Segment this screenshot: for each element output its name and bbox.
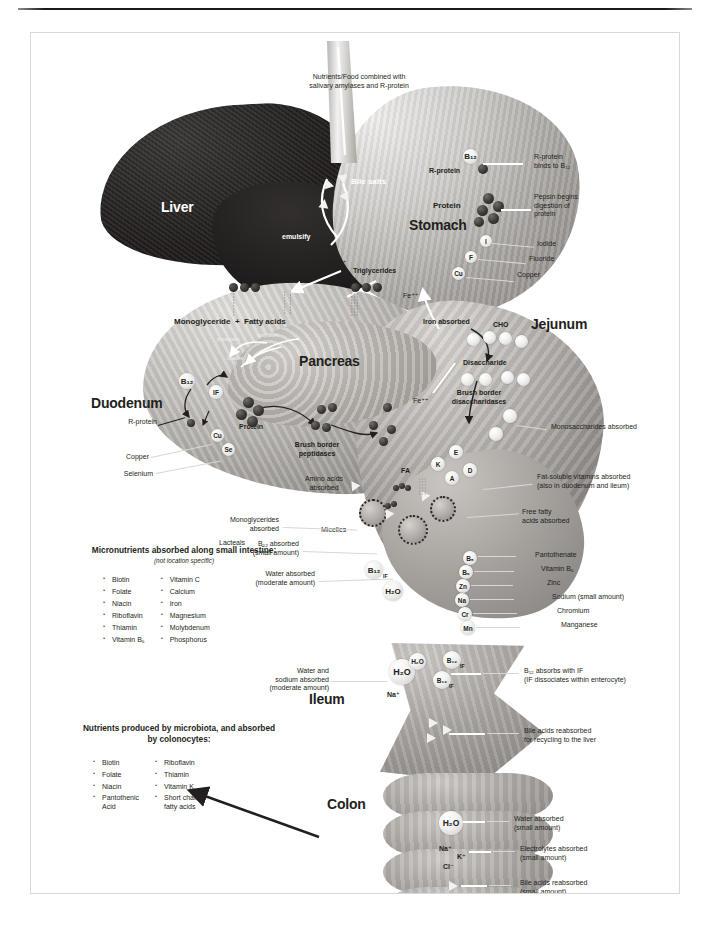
microbiota-box-title: Nutrients produced by microbiota, and ab… — [79, 723, 279, 745]
annotation-iodide: Iodide — [537, 240, 556, 249]
annotation-zinc: Zinc — [547, 579, 560, 588]
molecule-vitamin-k: K — [431, 457, 445, 471]
leader-line — [156, 460, 221, 474]
bile-salt-triangle-icon — [318, 198, 329, 208]
molecule-b12-ileum: B₁₂ — [443, 651, 461, 669]
monosaccharide-unit — [503, 409, 517, 423]
bile-triangle-icon — [427, 733, 436, 743]
protein-dot — [488, 213, 499, 224]
protein-inline-label: Protein — [433, 201, 461, 211]
molecule-chromium: Cr — [458, 607, 472, 621]
cho-unit — [483, 331, 496, 344]
annotation-copper-stomach: Copper — [517, 271, 540, 280]
cl-label-colon: Cl⁻ — [443, 863, 454, 872]
micelles-label: Micelles — [321, 526, 346, 535]
list-item: Riboflavin — [155, 757, 199, 769]
triglyceride-head — [351, 283, 360, 292]
annotation-water-absorbed-colon: Water absorbed (small amount) — [514, 815, 564, 832]
list-item: Biotin — [93, 757, 139, 769]
molecule-vitamin-a: A — [445, 471, 459, 485]
fatty-acid-dot — [391, 501, 397, 507]
triglyceride-tail: ¦ ¦ ¦ ¦ ¦ ¦ ¦ ¦ ¦ ¦ ¦ ¦ — [351, 293, 358, 317]
annotation-sodium-small: Sodium (small amount) — [552, 593, 624, 602]
molecule-if: IF — [209, 385, 223, 399]
fatty-acid-tail: ¦ ¦ ¦ ¦ ¦ ¦ ¦ ¦ — [284, 291, 291, 315]
molecule-zinc: Zn — [456, 579, 470, 593]
annotation-manganese: Manganese — [561, 621, 598, 630]
annotation-fat-soluble-vitamins: Fat-soluble vitamins absorbed (also in d… — [537, 473, 630, 490]
peptide-dot — [322, 423, 331, 432]
annotation-fluoride: Fluoride — [529, 255, 554, 264]
bile-salt-triangle-icon — [337, 174, 348, 184]
microbiota-box: Nutrients produced by microbiota, and ab… — [79, 723, 279, 812]
molecule-fluoride: F — [465, 251, 477, 263]
triglyceride-head — [362, 283, 371, 292]
list-item: Biotin — [103, 574, 145, 586]
leader-line — [478, 556, 516, 557]
leader-line — [303, 551, 377, 555]
fe2-label: Fe⁺⁺ — [403, 292, 419, 301]
list-item: Magnesium — [161, 610, 210, 622]
r-protein-molecule — [478, 164, 488, 174]
list-item: Vitamin C — [161, 574, 210, 586]
k-label-colon: K⁺ — [457, 853, 466, 862]
annotation-monosaccharides-absorbed: Monosaccharides absorbed — [551, 423, 637, 432]
top-caption: Nutrients/Food combined with salivary am… — [279, 73, 439, 90]
colon-shape — [383, 773, 553, 894]
micronutrient-box-title: Micronutrients absorbed along small inte… — [89, 545, 279, 556]
organ-label-ileum: Ileum — [309, 691, 345, 708]
leader-line — [487, 733, 519, 734]
molecule-se: Se — [222, 443, 235, 456]
micronutrient-column-2: Vitamin C Calcium Iron Magnesium Molybde… — [161, 574, 210, 646]
list-item: Thiamin — [103, 622, 145, 634]
r-protein-molecule — [187, 419, 195, 427]
annotation-water-sodium-absorbed: Water and sodium absorbed (moderate amou… — [225, 667, 329, 693]
cho-unit — [515, 335, 528, 348]
protein-dot — [243, 397, 254, 408]
list-item: Iron — [161, 598, 210, 610]
triglycerides-label: Triglycerides — [353, 267, 396, 276]
proteases-label: proteases — [217, 336, 240, 342]
protein-dot — [236, 409, 247, 420]
annotation-copper-duodenum: Copper — [91, 453, 149, 462]
peptide-dot — [311, 421, 320, 430]
annotation-vitamin-b6: Vitamin B₆ — [541, 565, 574, 574]
top-rule — [18, 8, 692, 10]
list-item: Vitamin K — [155, 781, 199, 793]
microbiota-column-2: Riboflavin Thiamin Vitamin K Short chain… — [155, 757, 199, 812]
amylases-label: amylases — [257, 332, 279, 338]
micronutrient-column-1: Biotin Folate Niacin Riboflavin Thiamin … — [103, 574, 145, 646]
list-item: Calcium — [161, 586, 210, 598]
leader-line — [473, 613, 517, 614]
na-label-ileum: Na⁺ — [387, 691, 400, 700]
micronutrient-box-subtitle: (not location specific) — [89, 557, 279, 564]
cho-label: CHO — [493, 321, 509, 330]
organ-label-duodenum: Duodenum — [91, 395, 163, 412]
annotation-chromium: Chromium — [557, 607, 589, 616]
molecule-b12: B₁₂ — [463, 149, 478, 164]
list-item: Riboflavin — [103, 610, 145, 622]
bile-triangle-icon — [429, 718, 438, 728]
disaccharide-unit — [501, 371, 514, 384]
fatty-acid-dot — [405, 485, 411, 491]
monoglyceride-head — [240, 283, 249, 292]
lipases-label: lipases — [227, 355, 243, 361]
na-label-colon: Na⁺ — [439, 845, 452, 854]
molecule-iodide: I — [480, 235, 492, 247]
disaccharide-unit — [461, 373, 474, 386]
fe2-label-jejunum: Fe⁺⁺ — [413, 397, 429, 406]
peptide-dot — [317, 405, 326, 414]
micronutrient-box: Micronutrients absorbed along small inte… — [89, 545, 279, 646]
list-item: Molybdenum — [161, 622, 210, 634]
leader-line — [493, 851, 515, 852]
list-item: Thiamin — [155, 769, 199, 781]
organ-label-jejunum: Jejunum — [531, 316, 587, 333]
leader-line — [470, 599, 514, 600]
molecule-cu-duodenum: Cu — [211, 429, 224, 442]
protein-dot — [474, 217, 484, 227]
protein-dot — [483, 193, 494, 204]
list-item: Niacin — [93, 781, 139, 793]
emulsify-label: emulsify — [282, 233, 310, 242]
leader-line — [463, 821, 485, 823]
leader-line — [483, 673, 519, 674]
